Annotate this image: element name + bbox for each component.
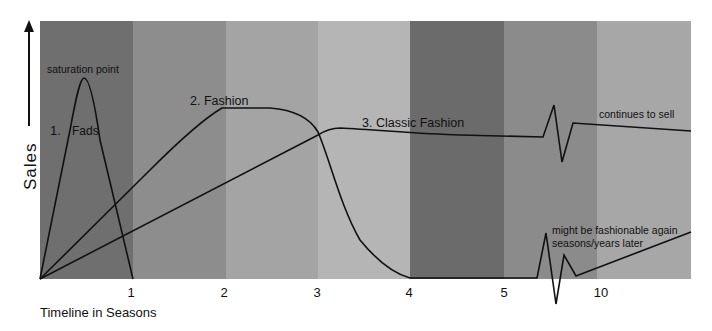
band-4 [318,21,410,279]
fashion-label: 2. Fashion [190,94,248,108]
saturation-point-label: saturation point [47,63,119,75]
classic-fashion-label: 3. Classic Fashion [362,116,464,130]
tick-5: 5 [500,285,507,300]
band-2 [133,21,226,279]
band-3 [226,21,318,279]
continues-to-sell-label: continues to sell [599,108,674,120]
tick-10: 10 [594,285,608,300]
sales-axis-arrow [24,20,34,126]
tick-1: 1 [127,285,134,300]
tick-3: 3 [313,285,320,300]
fashion-lifecycle-diagram: Sales saturation point 1. Fads 2. Fashio… [0,0,712,331]
x-axis-label: Timeline in Seasons [40,305,157,320]
fashionable-again-label-line2: seasons/years later [552,237,644,249]
tick-4: 4 [405,285,412,300]
fashionable-again-label-line1: might be fashionable again [552,224,678,236]
band-5 [410,21,504,279]
tick-2: 2 [220,285,227,300]
sales-axis-label: Sales [21,142,40,190]
x-tick-labels: 1 2 3 4 5 10 [127,285,608,300]
band-1 [40,21,133,279]
fads-number-label: 1. [50,123,61,138]
fads-label: Fads [72,124,99,138]
